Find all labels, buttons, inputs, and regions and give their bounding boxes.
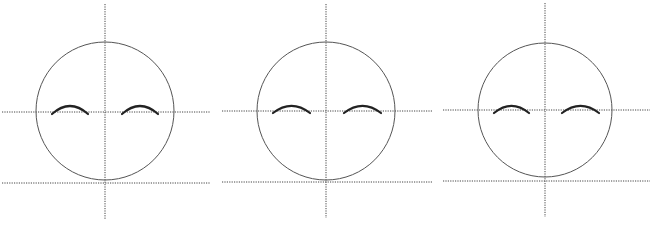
right-eye-arc <box>562 106 599 113</box>
face-construction-diagram <box>0 0 653 234</box>
face-sketch <box>2 4 210 219</box>
right-eye-arc <box>344 106 381 113</box>
left-eye-arc <box>273 106 310 113</box>
face-sketch <box>443 3 650 217</box>
right-eye-arc <box>122 106 158 114</box>
left-eye-arc <box>494 106 529 113</box>
face-sketch <box>222 4 432 218</box>
faces-group <box>2 3 650 219</box>
left-eye-arc <box>52 106 88 114</box>
